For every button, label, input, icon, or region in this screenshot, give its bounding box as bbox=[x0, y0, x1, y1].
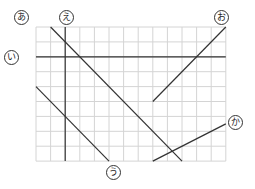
line-u bbox=[36, 87, 109, 162]
line-label-ka: か bbox=[228, 115, 243, 130]
line-grid-diagram bbox=[0, 0, 255, 189]
line-a bbox=[51, 27, 182, 161]
line-label-i: い bbox=[4, 50, 19, 65]
line-label-a: あ bbox=[14, 10, 29, 25]
line-label-u: う bbox=[106, 165, 121, 180]
line-label-e: え bbox=[59, 10, 74, 25]
line-o bbox=[153, 27, 226, 102]
line-label-o: お bbox=[214, 10, 229, 25]
